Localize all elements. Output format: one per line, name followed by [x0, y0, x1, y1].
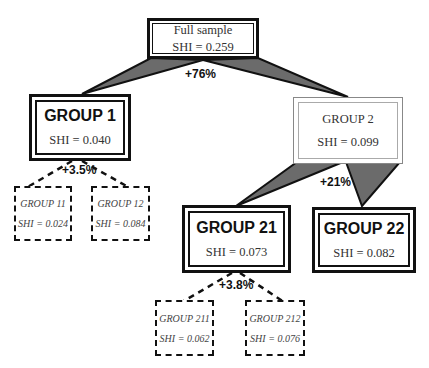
node-group-2: GROUP 2 SHI = 0.099 [293, 97, 403, 164]
node-shi: SHI = 0.082 [333, 246, 395, 261]
node-label: Full sample [174, 23, 233, 38]
node-shi: SHI = 0.062 [160, 333, 210, 344]
node-label: GROUP 212 [249, 313, 300, 324]
node-group-211: GROUP 211 SHI = 0.062 [155, 300, 214, 356]
node-label: GROUP 211 [159, 313, 209, 324]
node-group-12: GROUP 12 SHI = 0.084 [91, 186, 150, 241]
node-group-1: GROUP 1 SHI = 0.040 [29, 94, 131, 161]
node-label: GROUP 22 [324, 220, 405, 238]
node-shi: SHI = 0.040 [49, 133, 111, 148]
node-group-212: GROUP 212 SHI = 0.076 [245, 300, 305, 356]
node-shi: SHI = 0.099 [317, 135, 379, 150]
node-label: GROUP 12 [97, 198, 143, 209]
node-group-11: GROUP 11 SHI = 0.024 [14, 186, 72, 241]
node-group-22: GROUP 22 SHI = 0.082 [312, 207, 416, 273]
node-label: GROUP 2 [322, 112, 373, 127]
split-gain-group21: +3.8% [219, 278, 253, 292]
node-label: GROUP 21 [196, 219, 277, 237]
node-shi: SHI = 0.076 [250, 333, 300, 344]
split-gain-group2: +21% [320, 175, 351, 189]
node-shi: SHI = 0.259 [172, 40, 234, 55]
split-gain-root: +76% [185, 67, 216, 81]
split-gain-group1: +3.5% [62, 163, 96, 177]
tree-diagram: Full sample SHI = 0.259 +76% GROUP 1 SHI… [0, 0, 429, 368]
node-shi: SHI = 0.073 [206, 245, 268, 260]
node-shi: SHI = 0.024 [18, 218, 68, 229]
wedge-root-group2 [203, 58, 348, 97]
node-shi: SHI = 0.084 [96, 218, 146, 229]
node-group-21: GROUP 21 SHI = 0.073 [182, 205, 291, 273]
wedge-group2-group22 [346, 162, 400, 206]
node-full-sample: Full sample SHI = 0.259 [147, 18, 259, 59]
node-label: GROUP 1 [44, 107, 116, 125]
node-label: GROUP 11 [20, 198, 65, 209]
